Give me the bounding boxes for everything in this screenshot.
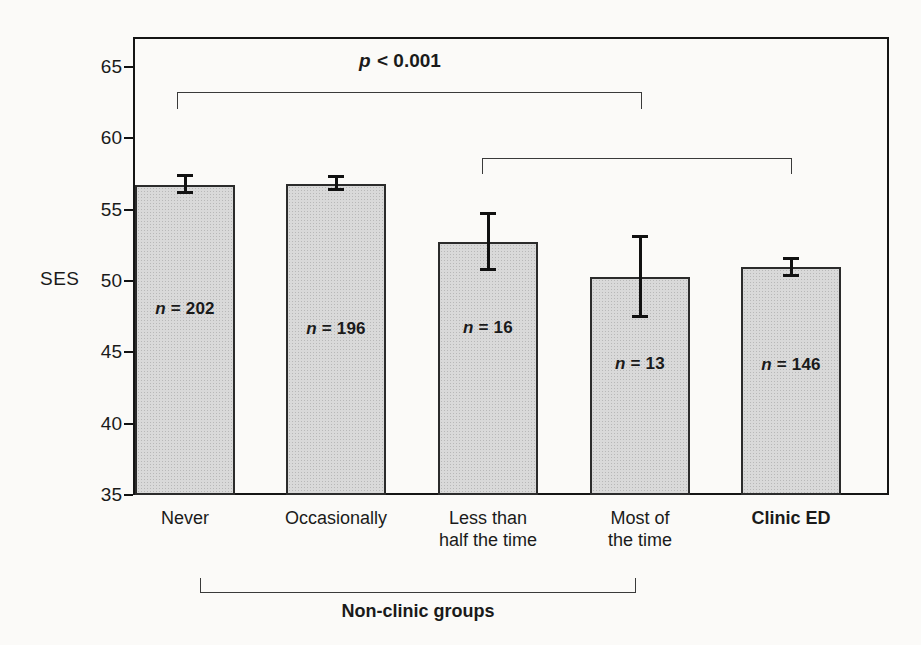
error-bar-cap-top-less-than-half-the-time <box>480 212 496 215</box>
non-clinic-group-bracket <box>200 578 636 593</box>
x-axis-label-clinic-ed: Clinic ED <box>751 507 830 529</box>
error-bar-cap-bottom-most-of-the-time <box>632 315 648 318</box>
x-axis-label-most-of-the-time: Most ofthe time <box>608 507 672 551</box>
error-bar-cap-bottom-never <box>177 191 193 194</box>
y-tick-mark-55 <box>124 209 133 211</box>
bar-n-label-never: n = 202 <box>135 299 235 319</box>
error-bar-cap-bottom-occasionally <box>328 188 344 191</box>
significance-bracket-never-to-most-of-the-time <box>177 92 642 109</box>
y-tick-mark-50 <box>124 280 133 282</box>
x-axis-label-less-than-half-the-time: Less thanhalf the time <box>439 507 537 551</box>
x-axis-label-never: Never <box>161 507 209 529</box>
error-bar-cap-top-clinic-ed <box>783 257 799 260</box>
y-tick-label-50: 50 <box>86 270 122 292</box>
bar-clinic-ed <box>741 267 841 495</box>
y-tick-mark-60 <box>124 137 133 139</box>
non-clinic-group-label: Non-clinic groups <box>342 601 495 622</box>
y-tick-mark-40 <box>124 423 133 425</box>
bar-n-label-most-of-the-time: n = 13 <box>590 354 690 374</box>
bar-n-label-occasionally: n = 196 <box>286 319 386 339</box>
error-bar-cap-top-never <box>177 174 193 177</box>
figure-canvas: SES 65605550454035n = 202Nevern = 196Occ… <box>0 0 921 645</box>
y-tick-mark-35 <box>124 494 133 496</box>
error-bar-most-of-the-time <box>639 237 642 317</box>
y-axis-title: SES <box>40 268 80 290</box>
y-tick-label-35: 35 <box>86 484 122 506</box>
y-tick-label-45: 45 <box>86 341 122 363</box>
bar-n-label-clinic-ed: n = 146 <box>741 355 841 375</box>
error-bar-less-than-half-the-time <box>487 214 490 270</box>
y-tick-label-65: 65 <box>86 56 122 78</box>
error-bar-never <box>184 175 187 192</box>
bar-never <box>135 185 235 495</box>
y-tick-mark-45 <box>124 351 133 353</box>
y-tick-label-40: 40 <box>86 413 122 435</box>
error-bar-clinic-ed <box>790 258 793 275</box>
p-value-label: p < 0.001 <box>359 50 441 72</box>
y-tick-label-55: 55 <box>86 199 122 221</box>
bar-n-label-less-than-half-the-time: n = 16 <box>438 318 538 338</box>
y-tick-label-60: 60 <box>86 127 122 149</box>
error-bar-cap-top-most-of-the-time <box>632 235 648 238</box>
error-bar-cap-bottom-less-than-half-the-time <box>480 268 496 271</box>
y-tick-mark-65 <box>124 66 133 68</box>
significance-bracket-less-than-half-the-time-to-clinic-ed <box>482 158 792 174</box>
error-bar-cap-top-occasionally <box>328 175 344 178</box>
x-axis-label-occasionally: Occasionally <box>285 507 387 529</box>
bar-less-than-half-the-time <box>438 242 538 495</box>
error-bar-cap-bottom-clinic-ed <box>783 274 799 277</box>
bar-occasionally <box>286 184 386 495</box>
